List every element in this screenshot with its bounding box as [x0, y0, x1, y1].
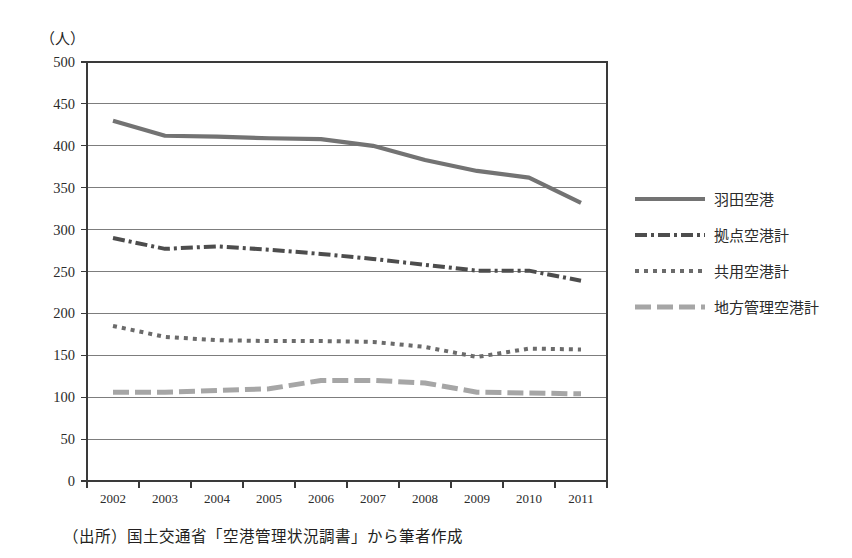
legend-label-3: 共用空港計	[714, 263, 789, 281]
y-axis-unit-group: （人）	[40, 31, 85, 47]
series-line-2	[113, 238, 581, 281]
y-axis-unit-label: （人）	[40, 31, 85, 47]
y-axis-tick-label: 0	[68, 473, 75, 489]
x-axis-tick-label: 2007	[360, 491, 387, 506]
y-axis-tick-label: 450	[53, 96, 75, 112]
x-axis-tick-label: 2008	[412, 491, 438, 506]
x-axis-tick-label: 2004	[204, 491, 231, 506]
y-axis-tick-label: 500	[53, 54, 75, 70]
y-axis-tick-label: 400	[53, 138, 75, 154]
data-series-group	[113, 121, 581, 394]
chart-figure: （人） 050100150200250300350400450500 20022…	[0, 0, 852, 558]
y-axis-tick-label: 100	[53, 389, 75, 405]
y-axis-tick-label: 300	[53, 222, 75, 238]
x-axis-ticks-group	[87, 481, 607, 488]
series-line-1	[113, 121, 581, 203]
series-line-4	[113, 380, 581, 393]
legend-label-4: 地方管理空港計	[714, 299, 819, 317]
legend-label-1: 羽田空港	[714, 191, 774, 209]
x-axis-tick-label: 2005	[256, 491, 282, 506]
y-axis-tick-label: 350	[53, 180, 75, 196]
x-axis-tick-label: 2006	[308, 491, 335, 506]
x-axis-tick-label: 2011	[568, 491, 594, 506]
y-axis-tick-label: 50	[61, 431, 76, 447]
x-axis-tick-label: 2010	[516, 491, 542, 506]
source-note: （出所）国土交通省「空港管理状況調書」から筆者作成	[63, 528, 463, 545]
y-axis-tick-label: 250	[53, 264, 75, 280]
y-axis-ticks-group	[81, 62, 87, 481]
x-axis-tick-labels-group: 2002200320042005200620072008200920102011	[100, 491, 594, 506]
y-axis-tick-label: 150	[53, 347, 75, 363]
x-axis-tick-label: 2009	[464, 491, 490, 506]
series-line-3	[113, 326, 581, 357]
legend-label-2: 拠点空港計	[714, 227, 789, 245]
x-axis-tick-label: 2003	[152, 491, 178, 506]
chart-legend: 羽田空港拠点空港計共用空港計地方管理空港計	[635, 191, 819, 317]
y-axis-tick-labels-group: 050100150200250300350400450500	[53, 54, 75, 489]
line-chart: （人） 050100150200250300350400450500 20022…	[0, 0, 852, 558]
y-axis-tick-label: 200	[53, 305, 75, 321]
x-axis-tick-label: 2002	[100, 491, 126, 506]
